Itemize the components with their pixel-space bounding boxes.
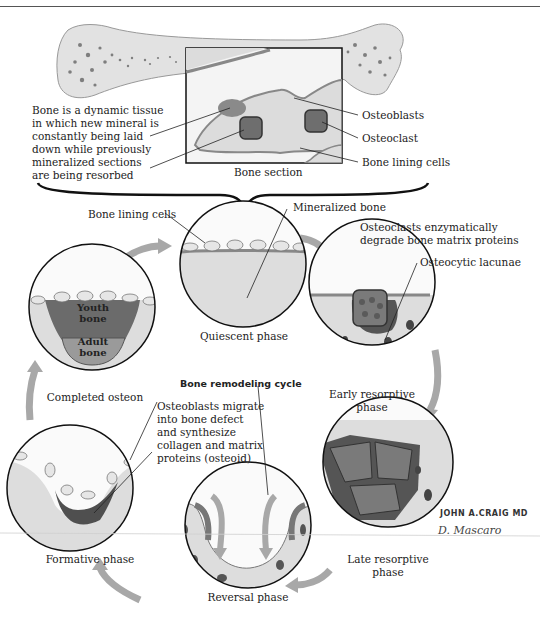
diagram-title: Bone remodeling cycle: [180, 377, 302, 390]
caption-formative-phase: Formative phase: [40, 553, 140, 566]
caption-late-resorptive-line-1: Late resorptive: [338, 553, 438, 566]
label-adult-line-1: Adult: [68, 336, 118, 347]
caption-early-resorptive-line-2: phase: [322, 401, 422, 414]
signature-mascaro: D. Mascaro: [438, 524, 502, 537]
description-line-5: mineralized sections: [32, 156, 142, 169]
signature-craig: JOHN A.CRAIG MD: [440, 509, 528, 518]
callout-osteoclast: Osteoclast: [362, 132, 418, 145]
formative-phase-circle: [0, 402, 157, 560]
caption-quiescent-phase: Quiescent phase: [196, 330, 292, 343]
label-osteoblasts-line-4: collagen and matrix: [157, 439, 263, 452]
label-osteoblasts-line-2: into bone defect: [157, 413, 244, 426]
description-line-2: in which new mineral is: [32, 117, 159, 130]
caption-early-resorptive-line-1: Early resorptive: [322, 388, 422, 401]
label-osteocytic-lacunae: Osteocytic lacunae: [420, 256, 521, 269]
label-youth-line-2: bone: [68, 313, 118, 324]
description-line-1: Bone is a dynamic tissue: [32, 104, 164, 117]
label-youth-line-1: Youth: [68, 302, 118, 313]
late-resorptive-phase-circle: [318, 397, 460, 530]
quiescent-phase-circle: [165, 201, 320, 342]
description-line-3: constantly being laid: [32, 130, 143, 143]
label-adult-line-2: bone: [68, 347, 118, 358]
description-line-4: down while previously: [32, 143, 151, 156]
bone-section-inset: [186, 45, 342, 163]
caption-late-resorptive-line-2: phase: [338, 566, 438, 579]
label-bone-lining-cells: Bone lining cells: [88, 208, 176, 221]
label-mineralized-bone: Mineralized bone: [293, 201, 386, 214]
bone-section-caption: Bone section: [234, 166, 303, 179]
label-osteoblasts-line-3: and synthesize: [157, 426, 236, 439]
callout-osteoblasts: Osteoblasts: [362, 109, 424, 122]
label-osteoclasts-line-1: Osteoclasts enzymatically: [360, 221, 498, 234]
caption-reversal-phase: Reversal phase: [198, 591, 298, 604]
label-osteoblasts-line-1: Osteoblasts migrate: [157, 400, 264, 413]
label-osteoblasts-line-5: proteins (osteoid): [157, 452, 251, 465]
callout-bone-lining-cells: Bone lining cells: [362, 156, 450, 169]
caption-completed-osteon: Completed osteon: [40, 391, 150, 404]
description-line-6: are being resorbed: [32, 169, 134, 182]
label-osteoclasts-line-2: degrade bone matrix proteins: [360, 234, 519, 247]
